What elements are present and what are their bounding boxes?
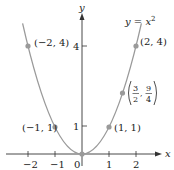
y-ticks: [82, 46, 87, 126]
label-point-minus2-4: (−2, 4): [34, 37, 69, 48]
parabola-diagram: x y −2 −1 0 1 2 1 4 (−2, 4) (2, 4) (−1, …: [0, 0, 174, 170]
svg-text:,: ,: [140, 89, 143, 98]
label-point-1-1: (1, 1): [114, 122, 141, 133]
function-label: y = x2: [124, 15, 156, 27]
tick-label-y-1: 1: [73, 121, 79, 132]
y-axis-label: y: [78, 2, 85, 13]
svg-text:9: 9: [146, 84, 151, 93]
svg-text:4: 4: [146, 95, 151, 104]
tick-label-x-minus1: −1: [50, 159, 65, 170]
tick-label-y-4: 4: [73, 41, 79, 52]
svg-text:3: 3: [133, 84, 138, 93]
label-point-3half-9quarter: 3 2 , 9 4: [129, 81, 157, 105]
point-origin: [79, 151, 84, 156]
label-point-minus1-1: (−1, 1): [22, 122, 57, 133]
point-3half-9quarter: [120, 90, 125, 95]
y-axis-arrow-icon: [80, 13, 85, 20]
label-point-2-4: (2, 4): [140, 36, 167, 47]
tick-label-x-2: 2: [133, 159, 139, 170]
tick-label-x-1: 1: [106, 159, 112, 170]
point-1-1: [106, 124, 111, 129]
tick-label-x-0: 0: [74, 159, 80, 170]
point-minus2-4: [25, 43, 30, 48]
point-2-4: [133, 43, 138, 48]
svg-text:y = x2: y = x2: [124, 15, 156, 27]
tick-label-x-minus2: −2: [23, 159, 38, 170]
svg-text:2: 2: [133, 95, 138, 104]
x-axis-label: x: [165, 148, 171, 159]
x-axis-arrow-icon: [155, 152, 162, 157]
